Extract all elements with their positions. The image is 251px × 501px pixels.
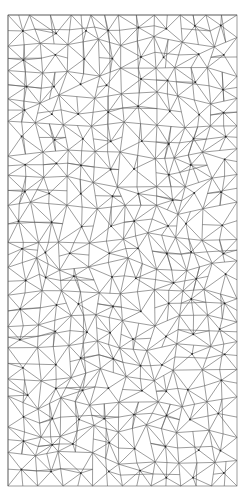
mesh-canvas xyxy=(0,0,251,501)
triangle-mesh-drawing xyxy=(0,0,251,501)
